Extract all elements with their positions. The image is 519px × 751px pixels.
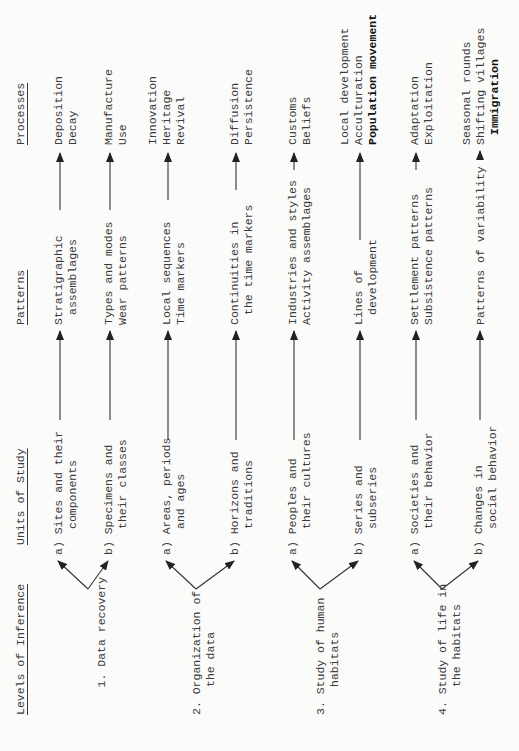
pattern-1a-1: Stratigraphic <box>52 235 66 325</box>
unit-2a-line2: and ages <box>174 474 188 529</box>
process-3b-2: Acculturation <box>352 55 366 145</box>
process-1a-1: Deposition <box>52 76 66 145</box>
process-4b-2: Shifting villages <box>474 28 488 145</box>
process-3b-3-bold: Population movement <box>366 14 380 145</box>
level-3-label-line2: habitats <box>328 632 342 687</box>
pattern-1a-2: assemblages <box>66 239 80 315</box>
unit-1b: b) Specimens and <box>102 445 116 555</box>
pattern-3b-2: development <box>366 239 380 315</box>
level-2-label-line2: the data <box>204 632 218 687</box>
process-2a-1: Innovation <box>146 76 160 145</box>
unit-4a-line2: their behavior <box>422 432 436 529</box>
process-3a-2: Beliefs <box>300 97 314 145</box>
pattern-4a-2: Subsistence patterns <box>422 187 436 325</box>
unit-1a-line2: components <box>66 460 80 529</box>
unit-2b: b) Horizons and <box>228 451 242 555</box>
unit-1a: a) Sites and their <box>52 431 66 555</box>
process-3b-1: Local development <box>338 28 352 145</box>
unit-4b-line2: social behavior <box>486 425 500 529</box>
level-2-label-line1: 2. Organization of <box>190 591 204 715</box>
pattern-1b-1: Types and modes <box>102 221 116 325</box>
pattern-4b-1: Patterns of variability <box>474 166 488 325</box>
unit-4b: b) Changes in <box>472 465 486 555</box>
level-4-label-line2: the habitats <box>450 604 464 687</box>
process-1b-2: Use <box>116 124 130 145</box>
pattern-3a-2: Activity assemblages <box>300 187 314 325</box>
arrow-3-b <box>320 561 358 589</box>
unit-4a: a) Societies and <box>408 445 422 555</box>
process-4b-3-bold: Immigration <box>488 59 502 135</box>
process-1b-1: Manufacture <box>102 69 116 145</box>
arrow-2-a <box>166 561 196 589</box>
pattern-1b-2: Wear patterns <box>116 235 130 325</box>
process-2b-2: Persistence <box>242 69 256 145</box>
process-1a-2: Decay <box>66 110 80 145</box>
level-1-label: 1. Data recovery <box>81 577 123 715</box>
pattern-2a-2: Time markers <box>174 242 188 325</box>
process-4b-1: Seasonal rounds <box>460 41 474 145</box>
pattern-4a-1: Settlement patterns <box>408 194 422 325</box>
level-4-label-line1: 4. Study of life in <box>436 584 450 715</box>
unit-2a: a) Areas, periods <box>160 438 174 555</box>
arrow-3-a <box>292 561 320 589</box>
process-2a-2: Heritage <box>160 90 174 145</box>
level-3-label-line1: 3. Study of human <box>314 598 328 715</box>
unit-3a-line2: their cultures <box>300 432 314 529</box>
pattern-3a-1: Industries and styles <box>286 180 300 325</box>
process-3a-1: Customs <box>286 97 300 145</box>
process-2a-3: Revival <box>174 97 188 145</box>
unit-3b-line2: subseries <box>366 467 380 529</box>
process-4a-2: Exploitation <box>422 62 436 145</box>
unit-1b-line2: their classes <box>116 439 130 529</box>
unit-3a: a) Peoples and <box>286 458 300 555</box>
process-2b-1: Diffusion <box>228 83 242 145</box>
process-4a-1: Adaptation <box>408 76 422 145</box>
unit-2b-line2: traditions <box>242 460 256 529</box>
pattern-3b-1: Lines of <box>352 270 366 325</box>
pattern-2b-2: the time markers <box>242 205 256 315</box>
unit-3b: b) Series and <box>352 465 366 555</box>
level-1-label-line: 1. Data recovery <box>95 577 108 687</box>
pattern-2b-1: Continuities in <box>228 221 242 325</box>
inference-diagram: Levels of Inference Units of Study Patte… <box>0 0 519 751</box>
pattern-2a-1: Local sequences <box>160 221 174 325</box>
arrow-2-b <box>196 561 234 589</box>
